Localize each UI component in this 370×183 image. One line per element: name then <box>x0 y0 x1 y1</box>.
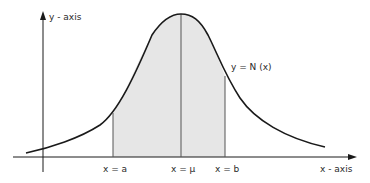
normal-distribution-diagram: y - axis y = N (x) x = a x = μ x = b x -… <box>0 0 370 183</box>
y-axis-label: y - axis <box>49 12 82 22</box>
marker-label-b: x = b <box>215 164 240 174</box>
curve-label: y = N (x) <box>231 62 272 72</box>
marker-label-mu: x = μ <box>171 164 196 174</box>
x-axis-label: x - axis <box>320 164 353 174</box>
marker-label-a: x = a <box>103 164 127 174</box>
x-axis-arrowhead-icon <box>348 154 357 160</box>
y-axis-arrowhead-icon <box>40 11 46 20</box>
